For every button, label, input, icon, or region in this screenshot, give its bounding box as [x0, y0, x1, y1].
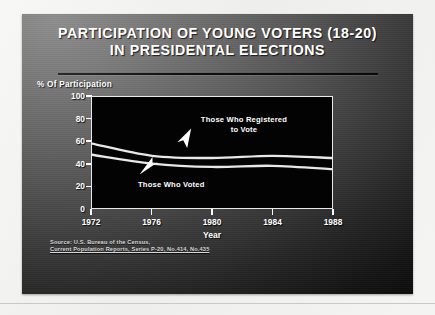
arrow-voted-icon: [140, 157, 159, 175]
x-tick-label: 1972: [71, 217, 111, 227]
annotation-registered-line-1: Those Who Registered: [196, 115, 292, 125]
y-tick-label: 100: [57, 91, 85, 101]
y-tick-label: 60: [57, 136, 85, 146]
x-tick-label: 1980: [192, 217, 232, 227]
x-tick-label: 1976: [132, 217, 172, 227]
x-tick-mark: [151, 209, 153, 215]
source-note: Source: U.S. Bureau of the Census, Curre…: [50, 239, 209, 254]
annotation-voted-line-1: Those Who Voted: [138, 180, 205, 190]
annotation-arrows: [92, 97, 332, 208]
page-bottom-divider: [0, 303, 435, 304]
source-line-1: Source: U.S. Bureau of the Census,: [50, 239, 209, 246]
y-tick-label: 80: [57, 114, 85, 124]
annotation-registered-line-2: to Vote: [196, 125, 292, 135]
y-tick-label: 40: [57, 159, 85, 169]
x-tick-mark: [332, 209, 334, 215]
x-tick-mark: [272, 209, 274, 215]
annotation-voted: Those Who Voted: [138, 180, 205, 190]
arrow-registered-icon: [177, 128, 191, 148]
x-tick-label: 1984: [253, 217, 293, 227]
plot-area: Those Who Registered to Vote Those Who V…: [91, 96, 333, 209]
x-tick-label: 1988: [313, 217, 353, 227]
slide-panel: PARTICIPATION OF YOUNG VOTERS (18-20) IN…: [22, 14, 413, 294]
x-tick-mark: [90, 209, 92, 215]
source-line-2: Current Population Reports, Series P-20,…: [50, 246, 209, 253]
annotation-registered: Those Who Registered to Vote: [196, 115, 292, 134]
x-tick-mark: [211, 209, 213, 215]
screenshot-page: PARTICIPATION OF YOUNG VOTERS (18-20) IN…: [0, 0, 435, 315]
y-tick-label: 0: [57, 204, 85, 214]
y-tick-label: 20: [57, 181, 85, 191]
